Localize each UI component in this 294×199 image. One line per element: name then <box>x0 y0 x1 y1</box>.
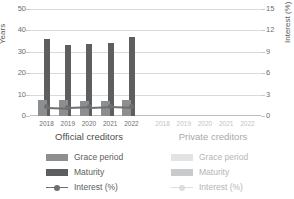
x-tick-label-2022: 2022 <box>237 118 258 129</box>
bar-group[interactable] <box>57 9 78 116</box>
legend-item[interactable]: Grace period <box>46 150 172 165</box>
bar-group[interactable] <box>152 9 173 116</box>
y-tick-label-left: 10 <box>18 91 26 99</box>
x-tick-label-2018: 2018 <box>152 118 173 129</box>
y-tick-mark-left <box>26 52 30 53</box>
x-tick-label-2019: 2019 <box>57 118 78 129</box>
legend-line-marker-icon <box>46 184 68 191</box>
y-tick-label-right: 12 <box>266 26 274 34</box>
y-tick-mark-right <box>261 116 265 117</box>
y-tick-mark-left <box>26 73 30 74</box>
bar-group[interactable] <box>194 9 215 116</box>
x-tick-label-2018: 2018 <box>36 118 57 129</box>
legend-item[interactable]: Interest (%) <box>46 180 172 195</box>
x-axis-ticks-official: 20182019202020212022 <box>36 118 142 129</box>
legend-item[interactable]: Maturity <box>171 165 294 180</box>
x-tick-label-2022: 2022 <box>121 118 142 129</box>
x-tick-label-2019: 2019 <box>173 118 194 129</box>
y-tick-label-right: 3 <box>266 91 270 99</box>
legend-label: Interest (%) <box>199 182 243 193</box>
legend-item[interactable]: Maturity <box>46 165 172 180</box>
panel-title-private: Private creditors <box>146 130 280 143</box>
plot-area: 01020304050 03691215 <box>30 9 261 116</box>
bar-group[interactable] <box>100 9 121 116</box>
y-tick-mark-left <box>26 95 30 96</box>
y-axis-label-left: Years <box>0 24 7 44</box>
y-tick-label-left: 50 <box>18 5 26 13</box>
panel-official-creditors <box>36 9 142 116</box>
y-tick-label-right: 6 <box>266 69 270 77</box>
x-tick-label-2020: 2020 <box>194 118 215 129</box>
bar-group[interactable] <box>36 9 57 116</box>
y-tick-mark-right <box>261 9 265 10</box>
y-tick-label-left: 20 <box>18 69 26 77</box>
legend-label: Grace period <box>199 152 248 163</box>
y-tick-label-left: 40 <box>18 26 26 34</box>
interest-data-point[interactable] <box>108 104 113 109</box>
legend-item[interactable]: Grace period <box>171 150 294 165</box>
y-tick-label-left: 30 <box>18 48 26 56</box>
x-axis-ticks-private: 20182019202020212022 <box>152 118 258 129</box>
legend-label: Maturity <box>74 167 104 178</box>
y-axis-label-right: Interest (%) <box>283 2 292 43</box>
y-tick-mark-left <box>26 30 30 31</box>
y-tick-label-right: 15 <box>266 5 274 13</box>
x-tick-label-2021: 2021 <box>100 118 121 129</box>
legend-private: Grace periodMaturityInterest (%) <box>171 150 294 195</box>
legend-label: Maturity <box>199 167 229 178</box>
y-tick-label-right: 9 <box>266 48 270 56</box>
y-tick-mark-right <box>261 95 265 96</box>
bar-group[interactable] <box>237 9 258 116</box>
bar-group[interactable] <box>78 9 99 116</box>
y-tick-mark-left <box>26 116 30 117</box>
legend-official: Grace periodMaturityInterest (%) <box>46 150 172 195</box>
legend-label: Interest (%) <box>74 182 118 193</box>
x-tick-label-2021: 2021 <box>216 118 237 129</box>
legend-swatch-icon <box>171 154 193 161</box>
interest-data-point[interactable] <box>87 104 92 109</box>
bar-group[interactable] <box>121 9 142 116</box>
legend-line-marker-icon <box>171 184 193 191</box>
legend-swatch-icon <box>46 169 68 176</box>
panel-private-creditors <box>152 9 258 116</box>
y-tick-mark-right <box>261 52 265 53</box>
legend-label: Grace period <box>74 152 123 163</box>
legend-swatch-icon <box>46 154 68 161</box>
y-tick-mark-left <box>26 9 30 10</box>
panel-title-official: Official creditors <box>22 130 156 143</box>
x-tick-label-2020: 2020 <box>78 118 99 129</box>
legend-item[interactable]: Interest (%) <box>171 180 294 195</box>
bar-group[interactable] <box>216 9 237 116</box>
bar-group[interactable] <box>173 9 194 116</box>
y-tick-mark-right <box>261 30 265 31</box>
y-tick-label-right: 0 <box>266 112 270 120</box>
y-tick-mark-right <box>261 73 265 74</box>
chart-container: Years Interest (%) 01020304050 03691215 … <box>0 0 294 199</box>
legend-swatch-icon <box>171 169 193 176</box>
